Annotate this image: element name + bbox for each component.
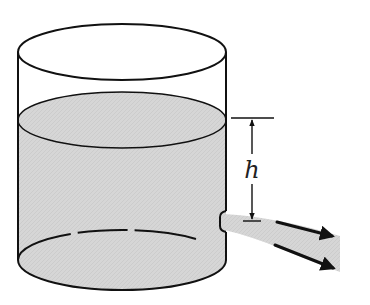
height-label: h: [244, 156, 259, 184]
water-body: [18, 92, 226, 290]
tank-top-rim: [18, 24, 226, 80]
tank-drain-diagram: h: [0, 0, 370, 305]
